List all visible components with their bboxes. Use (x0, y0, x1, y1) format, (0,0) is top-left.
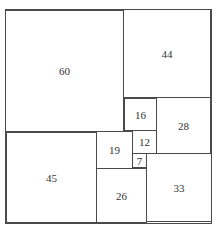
square-12: 12 (132, 130, 157, 154)
square-label: 12 (139, 136, 150, 148)
square-33: 33 (146, 153, 212, 222)
square-26: 26 (96, 168, 147, 223)
square-16: 16 (124, 98, 157, 131)
square-label: 7 (137, 155, 143, 167)
square-label: 44 (162, 48, 173, 60)
square-label: 19 (109, 144, 120, 156)
square-19: 19 (96, 131, 133, 169)
square-60: 60 (5, 10, 124, 132)
square-44: 44 (123, 9, 211, 98)
square-label: 33 (174, 182, 185, 194)
square-label: 28 (178, 120, 189, 132)
square-label: 26 (116, 190, 127, 202)
square-7: 7 (132, 153, 147, 168)
square-28: 28 (156, 97, 211, 154)
square-label: 16 (135, 109, 146, 121)
square-label: 45 (46, 172, 57, 184)
square-label: 60 (59, 65, 70, 77)
square-45: 45 (6, 132, 97, 223)
